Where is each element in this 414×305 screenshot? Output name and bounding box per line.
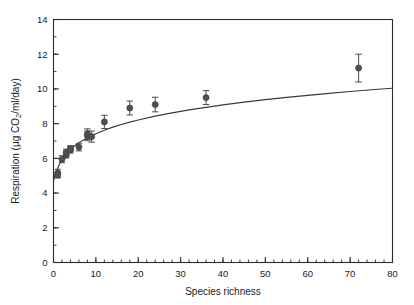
y-axis-title: Respiration (µg CO2/ml/day)	[10, 78, 23, 204]
data-point-marker	[67, 146, 73, 152]
y-tick-label: 2	[42, 222, 47, 233]
data-point-marker	[127, 105, 133, 111]
x-tick-label: 20	[133, 268, 144, 279]
data-point-marker	[101, 119, 107, 125]
y-tick-label: 6	[42, 153, 47, 164]
y-tick-label: 4	[42, 187, 47, 198]
data-point-markers	[55, 65, 362, 178]
y-tick-label: 8	[42, 118, 47, 129]
y-tick-label: 0	[42, 257, 47, 268]
plot-frame-rect	[54, 20, 393, 263]
plot-frame	[54, 20, 393, 263]
y-tick-label: 10	[37, 83, 48, 94]
y-tick-label: 14	[37, 14, 48, 25]
x-tick-label: 80	[387, 268, 398, 279]
data-point-marker	[203, 95, 209, 101]
y-axis-tick-labels: 02468101214	[37, 14, 48, 268]
x-tick-label: 30	[175, 268, 186, 279]
data-point-marker	[356, 65, 362, 71]
y-tick-label: 12	[37, 49, 48, 60]
x-tick-label: 60	[302, 268, 313, 279]
x-tick-label: 0	[51, 268, 56, 279]
respiration-species-richness-scatter-plot: 01020304050607080 02468101214 Species ri…	[0, 0, 414, 305]
chart-container: 01020304050607080 02468101214 Species ri…	[0, 0, 414, 305]
fitted-curve	[54, 88, 393, 181]
data-point-marker	[55, 172, 61, 178]
x-tick-label: 10	[91, 268, 102, 279]
x-axis-title: Species richness	[185, 286, 261, 297]
data-point-marker	[76, 144, 82, 150]
x-tick-label: 50	[260, 268, 271, 279]
data-point-marker	[89, 134, 95, 140]
x-axis-tick-labels: 01020304050607080	[51, 268, 398, 279]
data-point-marker	[152, 101, 158, 107]
x-tick-label: 70	[345, 268, 356, 279]
error-bars	[55, 54, 362, 178]
x-tick-label: 40	[218, 268, 229, 279]
